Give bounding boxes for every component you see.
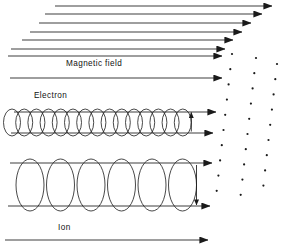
ion-coil xyxy=(77,159,105,211)
dot-column-middle-dot xyxy=(243,163,245,165)
rotation-direction-arrows xyxy=(191,113,196,206)
ion-coil xyxy=(138,159,166,211)
receding-field-dot-group xyxy=(216,53,279,196)
dot-column-middle-dot xyxy=(240,194,242,196)
ion-coil xyxy=(169,159,197,211)
ion-coil xyxy=(16,159,44,211)
dot-column-middle-dot xyxy=(250,103,252,105)
dot-column-middle-dot xyxy=(255,57,257,59)
dot-column-far-dot xyxy=(267,139,269,141)
dot-column-near-dot xyxy=(217,175,219,177)
dot-column-near-dot xyxy=(216,190,218,192)
diagram-canvas: Magnetic field Electron Ion xyxy=(0,0,283,247)
dot-column-middle-dot xyxy=(241,179,243,181)
dot-column-far-dot xyxy=(274,78,276,80)
magnetic-field-diagram: Magnetic field Electron Ion xyxy=(0,0,283,247)
dot-column-far-dot xyxy=(264,169,266,171)
dot-column-near-dot xyxy=(229,68,231,70)
dot-column-middle-dot xyxy=(253,72,255,74)
dot-column-near-dot xyxy=(221,144,223,146)
dot-column-far-dot xyxy=(271,109,273,111)
straight-field-line-group xyxy=(5,78,222,240)
dot-column-near-dot xyxy=(222,129,224,131)
dot-column-middle-dot xyxy=(246,133,248,135)
perspective-field-line-group xyxy=(8,6,272,56)
dot-column-near-dot xyxy=(231,53,233,55)
dot-column-middle-dot xyxy=(248,118,250,120)
dot-column-far-dot xyxy=(262,185,264,187)
electron-helix xyxy=(4,109,192,136)
dot-column-middle-dot xyxy=(252,87,254,89)
electron-coil xyxy=(174,109,191,136)
ion-coil xyxy=(47,159,75,211)
dot-column-middle-dot xyxy=(245,148,247,150)
dot-column-near-dot xyxy=(224,114,226,116)
dot-column-far-dot xyxy=(269,124,271,126)
dot-column-far-dot xyxy=(266,154,268,156)
dot-column-near-dot xyxy=(219,159,221,161)
electron-label: Electron xyxy=(34,91,67,100)
ion-label: Ion xyxy=(58,223,71,232)
ion-coil xyxy=(108,159,136,211)
dot-column-far-dot xyxy=(273,93,275,95)
dot-column-near-dot xyxy=(228,83,230,85)
dot-column-far-dot xyxy=(276,63,278,65)
dot-column-near-dot xyxy=(226,99,228,101)
magnetic-field-label: Magnetic field xyxy=(66,59,122,68)
ion-helix xyxy=(16,159,197,211)
